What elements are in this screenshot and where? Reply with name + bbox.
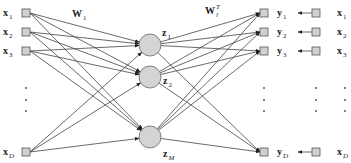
output-label: y2 [277, 26, 287, 40]
target-label: x1 [337, 7, 347, 21]
encoder-edge-x4-z3 [30, 138, 139, 152]
output-label: y3 [277, 45, 287, 59]
hidden-node [139, 34, 161, 56]
target-label: x2 [337, 26, 347, 40]
output-label: y1 [277, 7, 287, 21]
input-label: x3 [3, 45, 13, 59]
ellipsis-dots [25, 87, 346, 112]
decoder-weights-label: WTl [205, 3, 221, 19]
target-node [312, 148, 320, 156]
encoder-edge-x4-z1 [30, 52, 142, 152]
labels: x1x2x3xDz1z2zMy1y2y3yDx1x2x3xDW1WTl [3, 3, 348, 162]
encoder-edge-x2-z3 [30, 32, 142, 130]
input-label: x2 [3, 26, 13, 40]
ellipsis-dot [315, 99, 317, 101]
output-node [260, 28, 268, 36]
ellipsis-dot [315, 110, 317, 112]
input-node [22, 47, 30, 55]
autoencoder-diagram: x1x2x3xDz1z2zMy1y2y3yDx1x2x3xDW1WTl [0, 0, 351, 163]
ellipsis-dot [344, 87, 346, 89]
hidden-label: z1 [162, 27, 171, 41]
output-label: yD [277, 146, 288, 160]
ellipsis-dot [344, 99, 346, 101]
ellipsis-dot [263, 87, 265, 89]
hidden-node [139, 126, 161, 148]
ellipsis-dot [263, 99, 265, 101]
decoder-edge-z3-y1 [157, 13, 260, 129]
output-node [260, 9, 268, 17]
input-node [22, 28, 30, 36]
input-label: x1 [3, 7, 13, 21]
target-label: xD [337, 146, 348, 160]
hidden-node [139, 66, 161, 88]
encoder-edge-x4-z2 [30, 83, 141, 152]
ellipsis-dot [25, 99, 27, 101]
ellipsis-dot [263, 110, 265, 112]
encoder-edge-x1-z3 [30, 13, 142, 129]
ellipsis-dot [25, 110, 27, 112]
encoder-weights-label: W1 [72, 8, 87, 22]
ellipsis-dot [344, 110, 346, 112]
output-node [260, 47, 268, 55]
target-label: x3 [337, 45, 347, 59]
input-node [22, 9, 30, 17]
target-node [312, 47, 320, 55]
input-node [22, 148, 30, 156]
ellipsis-dot [25, 87, 27, 89]
target-node [312, 9, 320, 17]
target-node [312, 28, 320, 36]
decoder-edge-z3-y4 [161, 138, 260, 152]
hidden-label: zM [163, 148, 175, 162]
input-label: xD [3, 146, 14, 160]
output-node [260, 148, 268, 156]
ellipsis-dot [315, 87, 317, 89]
